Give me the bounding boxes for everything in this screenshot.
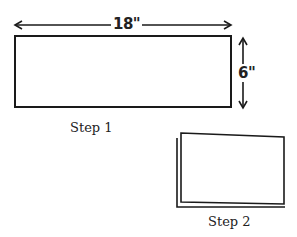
step2-folded-rectangle (177, 133, 285, 207)
width-dimension-label: 18" (111, 15, 142, 33)
folding-diagram (0, 0, 297, 237)
height-dimension-label: 6" (236, 64, 257, 82)
step1-caption: Step 1 (70, 120, 113, 135)
step2-caption: Step 2 (208, 214, 251, 229)
step1-rectangle (15, 36, 231, 107)
